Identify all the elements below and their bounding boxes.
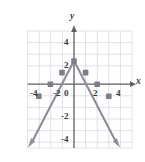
y-tick-label-2: 2 — [64, 61, 69, 70]
y-axis — [71, 26, 77, 149]
y-tick-label-4: 4 — [64, 38, 69, 47]
coordinate-plane-figure: -4 -2 2 4 0 4 2 -2 -4 y x — [0, 0, 145, 162]
y-axis-name: y — [70, 12, 74, 22]
x-axis — [28, 81, 136, 87]
x-tick-label--2: -2 — [53, 89, 61, 98]
x-axis-name: x — [136, 77, 141, 87]
y-tick-label--4: -4 — [61, 135, 69, 144]
x-tick-label-4: 4 — [116, 89, 121, 98]
data-point — [71, 58, 77, 64]
data-point — [59, 70, 65, 76]
data-point — [94, 81, 100, 87]
x-tick-label--4: -4 — [30, 89, 38, 98]
data-point — [83, 70, 89, 76]
graph-canvas — [0, 0, 145, 162]
origin-label: 0 — [64, 89, 69, 98]
y-tick-label--2: -2 — [61, 112, 69, 121]
y-axis-arrow — [71, 26, 77, 33]
data-point — [48, 81, 54, 87]
data-point — [106, 93, 112, 99]
x-tick-label-2: 2 — [93, 89, 98, 98]
